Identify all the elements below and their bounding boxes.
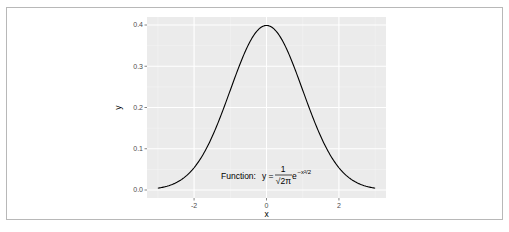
x-axis-title: x (264, 209, 269, 219)
y-tick-label: 0.0 (133, 186, 143, 193)
annotation-exp-base: e (292, 171, 297, 181)
annotation-exponent: −x²/2 (298, 169, 312, 175)
annotation-denominator: √2π (276, 176, 291, 186)
x-tick-label: 2 (337, 202, 341, 209)
y-axis-ticks: 0.00.10.20.30.4 (133, 21, 147, 193)
annotation-prefix: Function: (221, 171, 256, 181)
y-tick-label: 0.1 (133, 145, 143, 152)
chart: 0.00.10.20.30.4 -202 x y Function: y = 1… (0, 0, 509, 232)
annotation-lhs: y = (262, 171, 274, 181)
x-tick-label: -2 (191, 202, 197, 209)
y-tick-label: 0.3 (133, 63, 143, 70)
y-tick-label: 0.4 (133, 21, 143, 28)
x-tick-label: 0 (265, 202, 269, 209)
y-axis-title: y (113, 105, 123, 110)
x-axis-ticks: -202 (191, 198, 341, 209)
annotation-numerator: 1 (281, 164, 286, 174)
y-tick-label: 0.2 (133, 104, 143, 111)
